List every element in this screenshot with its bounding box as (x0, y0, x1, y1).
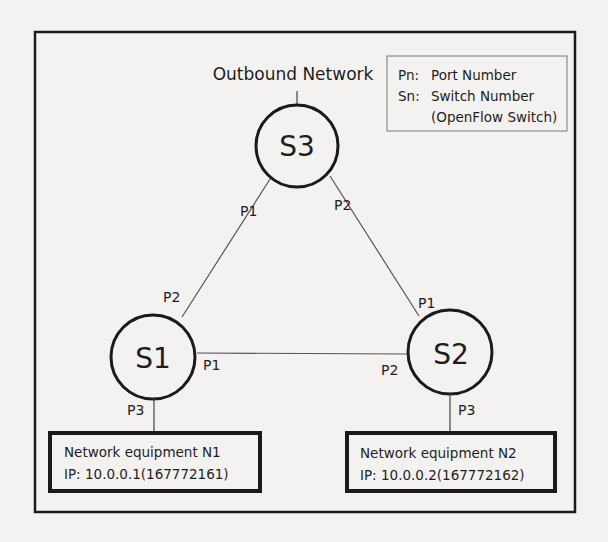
legend-value-switch-number: Switch Number (431, 88, 535, 104)
s2-port-p2: P2 (381, 362, 398, 378)
equipment-n2-ip: IP: 10.0.0.2(167772162) (360, 467, 525, 483)
s3-port-p2: P2 (334, 197, 351, 213)
switch-s2-label: S2 (433, 338, 469, 371)
equipment-n1-ip: IP: 10.0.0.1(167772161) (64, 466, 229, 482)
outbound-network-label: Outbound Network (213, 64, 374, 84)
equipment-n2-name: Network equipment N2 (360, 445, 517, 461)
equipment-n1-name: Network equipment N1 (64, 444, 221, 460)
legend-key-pn: Pn: (398, 67, 419, 83)
legend-value-port-number: Port Number (431, 67, 517, 83)
switch-s2[interactable]: S2 (408, 310, 492, 394)
s2-port-p3: P3 (458, 402, 475, 418)
legend-value-openflow-switch: (OpenFlow Switch) (431, 109, 557, 125)
s2-port-p1: P1 (418, 295, 435, 311)
link-s3-s1 (182, 176, 272, 317)
legend-key-sn: Sn: (398, 88, 420, 104)
s1-port-p3: P3 (127, 402, 144, 418)
switch-s3[interactable]: S3 (256, 105, 338, 187)
equipment-n1[interactable]: Network equipment N1 IP: 10.0.0.1(167772… (50, 433, 260, 491)
s1-port-p1: P1 (203, 357, 220, 373)
s3-port-p1: P1 (240, 203, 257, 219)
s1-port-p2: P2 (163, 289, 180, 305)
switch-s3-label: S3 (279, 130, 315, 163)
switch-s1-label: S1 (135, 342, 171, 375)
switch-s1[interactable]: S1 (111, 315, 195, 399)
network-topology-diagram: Pn: Port Number Sn: Switch Number (OpenF… (0, 0, 608, 542)
link-s1-s2 (197, 353, 407, 354)
equipment-n2[interactable]: Network equipment N2 IP: 10.0.0.2(167772… (347, 433, 555, 491)
